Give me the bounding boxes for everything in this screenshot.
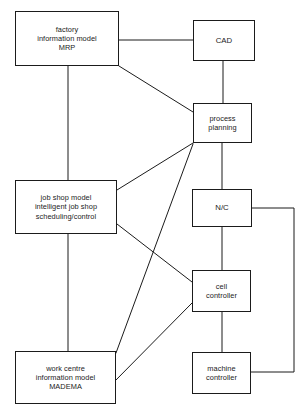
diagram-canvas: factory information model MRP CAD proces… bbox=[0, 0, 304, 411]
node-label: job shop model intelligent job shop sche… bbox=[33, 193, 99, 220]
node-label: factory information model MRP bbox=[35, 25, 99, 52]
node-label: N/C bbox=[213, 203, 231, 212]
node-label: cell controller bbox=[204, 282, 239, 300]
node-cell-controller[interactable]: cell controller bbox=[192, 270, 251, 312]
node-nc[interactable]: N/C bbox=[192, 189, 252, 227]
node-label: work centre information model MADEMA bbox=[34, 364, 98, 391]
node-label: CAD bbox=[214, 36, 235, 45]
node-cad[interactable]: CAD bbox=[193, 20, 255, 61]
node-label: machine controller bbox=[204, 364, 239, 382]
node-process-planning[interactable]: process planning bbox=[193, 103, 252, 143]
node-job-shop-model[interactable]: job shop model intelligent job shop sche… bbox=[15, 180, 117, 234]
connector-cell-controller-to-work-centre bbox=[116, 303, 192, 380]
node-factory-information-model[interactable]: factory information model MRP bbox=[15, 11, 119, 66]
connector-factory-to-process-planning bbox=[119, 66, 193, 112]
connector-job-shop-to-process-planning bbox=[117, 143, 193, 190]
node-label: process planning bbox=[206, 114, 238, 132]
connector-nc-to-machine-controller-bypass bbox=[251, 208, 294, 372]
node-machine-controller[interactable]: machine controller bbox=[192, 352, 251, 394]
node-work-centre-information-model[interactable]: work centre information model MADEMA bbox=[15, 351, 116, 404]
connector-process-planning-to-work-centre bbox=[116, 144, 193, 353]
connector-job-shop-to-cell-controller bbox=[117, 224, 192, 282]
